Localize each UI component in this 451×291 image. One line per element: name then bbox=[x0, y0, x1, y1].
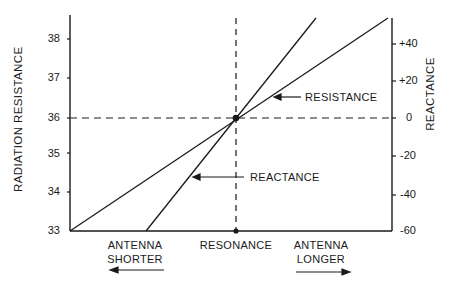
longer-arrow bbox=[296, 269, 350, 275]
reactance-label: REACTANCE bbox=[250, 171, 320, 183]
right-tick-plus40: +40 bbox=[399, 37, 418, 49]
left-tick-35: 35 bbox=[38, 147, 60, 159]
left-tick-38: 38 bbox=[38, 32, 60, 44]
left-tick-34: 34 bbox=[38, 185, 60, 197]
reactance-line bbox=[146, 18, 316, 231]
resonance-point bbox=[233, 228, 238, 233]
resonance-label: RESONANCE bbox=[196, 238, 276, 252]
left-tick-36: 36 bbox=[38, 111, 60, 123]
intersection-point bbox=[233, 115, 240, 122]
right-tick-plus20: +20 bbox=[399, 74, 418, 86]
left-tick-37: 37 bbox=[38, 71, 60, 83]
right-axis-title: REACTANCE bbox=[424, 54, 436, 134]
antenna-longer-label: ANTENNA LONGER bbox=[290, 238, 352, 266]
left-tick-33: 33 bbox=[38, 224, 60, 236]
left-axis-title: RADIATION RESISTANCE bbox=[12, 52, 24, 192]
resistance-arrow bbox=[274, 94, 301, 100]
resistance-label: RESISTANCE bbox=[305, 91, 377, 103]
antenna-longer-line2: LONGER bbox=[290, 252, 352, 266]
right-tick-minus60: -60 bbox=[400, 224, 416, 236]
antenna-shorter-line1: ANTENNA bbox=[105, 238, 165, 252]
right-tick-0: 0 bbox=[406, 111, 412, 123]
resistance-line bbox=[70, 18, 388, 231]
antenna-shorter-label: ANTENNA SHORTER bbox=[105, 238, 165, 266]
antenna-shorter-line2: SHORTER bbox=[105, 252, 165, 266]
right-tick-minus40: -40 bbox=[400, 188, 416, 200]
antenna-longer-line1: ANTENNA bbox=[290, 238, 352, 252]
right-tick-minus20: -20 bbox=[400, 149, 416, 161]
shorter-arrow bbox=[110, 267, 164, 273]
